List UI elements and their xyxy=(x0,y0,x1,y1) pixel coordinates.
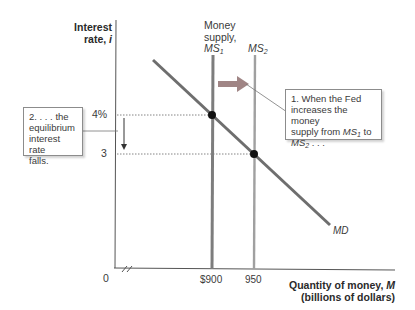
ms2-label: MS2 xyxy=(248,43,268,54)
interest-fall-arrow-icon xyxy=(121,118,127,150)
origin-label: 0 xyxy=(103,273,109,284)
x-tick-950: 950 xyxy=(245,274,262,285)
note1-line3: supply from MS1 to xyxy=(291,126,376,137)
note1-ms2-name: MS xyxy=(291,137,305,148)
note1-ms1: MS1 xyxy=(343,126,361,137)
ms1-sub: 1 xyxy=(220,48,224,55)
md-label: MD xyxy=(333,225,349,236)
x-axis-label-line1: Quantity of money, M xyxy=(280,279,395,291)
x-axis-label: Quantity of money, M (billions of dollar… xyxy=(280,279,395,303)
note1-line2: increases the money xyxy=(291,104,376,126)
x-axis-var: M xyxy=(386,279,395,291)
ms2-name: MS xyxy=(248,42,264,54)
y-axis-var: i xyxy=(109,33,112,45)
note2-line3: interest rate xyxy=(29,133,77,155)
note2-line1: 2. . . . the xyxy=(29,111,77,122)
equilibrium-point-1 xyxy=(208,111,216,119)
annotation-rate-falls: 2. . . . the equilibrium interest rate f… xyxy=(23,107,83,156)
note1-line3-post: to xyxy=(361,126,372,137)
y-tick-4pct: 4% xyxy=(92,109,107,120)
note1-line3-pre: supply from xyxy=(291,126,343,137)
y-axis-label-line1: Interest xyxy=(62,21,112,33)
shift-arrow-icon xyxy=(218,76,249,92)
ms1-label-name: MS1 xyxy=(204,43,237,55)
note1-ms1-name: MS xyxy=(343,126,357,137)
ms1-name: MS xyxy=(204,42,220,54)
y-axis xyxy=(115,20,116,268)
note2-line4: falls. xyxy=(29,155,77,166)
y-axis-label: Interest rate, i xyxy=(62,21,112,45)
y-axis-label-text: rate, xyxy=(84,33,109,45)
y-tick-3: 3 xyxy=(101,148,107,159)
ms1-label-line1: Money xyxy=(204,20,237,32)
note2-line2: equilibrium xyxy=(29,122,77,133)
note1-leader xyxy=(246,84,287,112)
note1-ellipsis: . . . xyxy=(309,137,325,148)
note1-line1: 1. When the Fed xyxy=(291,93,376,104)
ms2-line xyxy=(254,55,255,269)
note1-ms2: MS2 xyxy=(291,137,309,148)
ms1-line xyxy=(212,55,213,269)
equilibrium-point-2 xyxy=(250,150,258,158)
axis-break-icon xyxy=(122,266,132,272)
x-tick-900: $900 xyxy=(200,274,222,285)
x-axis-label-text: Quantity of money, xyxy=(289,279,386,291)
ms1-label: Money supply, MS1 xyxy=(204,20,237,55)
ms2-sub: 2 xyxy=(264,48,268,55)
x-axis-label-line2: (billions of dollars) xyxy=(280,291,395,303)
note1-line4: MS2 . . . xyxy=(291,137,376,148)
annotation-fed-increase: 1. When the Fed increases the money supp… xyxy=(285,89,382,140)
y-axis-label-line2: rate, i xyxy=(62,33,112,45)
